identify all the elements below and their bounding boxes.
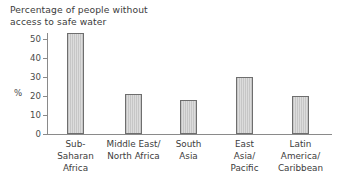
y-axis-tick-label: 10 <box>0 111 41 120</box>
x-axis-category-label-5: Latin America/ Caribbean <box>264 138 338 174</box>
bar-3 <box>180 100 197 134</box>
y-axis-tick-mark <box>43 134 48 135</box>
y-axis-tick-label: 30 <box>0 73 41 82</box>
chart-title: Percentage of people without access to s… <box>10 4 250 28</box>
bar-chart-figure: Percentage of people without access to s… <box>0 0 346 196</box>
y-axis-tick-label: 50 <box>0 35 41 44</box>
bar-4 <box>236 77 253 134</box>
y-axis-tick-label: 0 <box>0 130 41 139</box>
y-axis-tick-label: 20 <box>0 92 41 101</box>
y-axis-tick-label: 40 <box>0 54 41 63</box>
bars-layer <box>47 33 332 134</box>
bar-5 <box>292 96 309 134</box>
x-axis-line <box>47 134 332 135</box>
x-axis-category-labels: Sub- Saharan AfricaMiddle East/ North Af… <box>47 138 332 190</box>
bar-1 <box>67 33 84 134</box>
bar-2 <box>125 94 142 134</box>
